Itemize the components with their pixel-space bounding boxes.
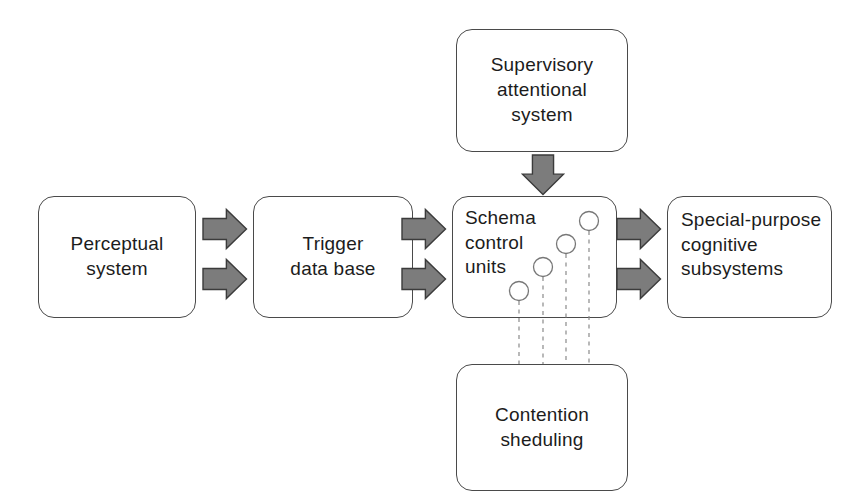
node-trigger-data-base-label: Trigger data base — [290, 232, 375, 281]
arrow-shape — [617, 210, 661, 249]
node-contention-sheduling[interactable]: Contention sheduling — [456, 364, 628, 491]
arrow-schema-to-subsystems-upper — [616, 208, 662, 250]
arrow-supervisory-to-schema — [521, 154, 565, 196]
arrow-shape — [402, 260, 446, 299]
arrow-perceptual-to-trigger-lower — [202, 258, 248, 300]
node-trigger-data-base[interactable]: Trigger data base — [253, 196, 413, 318]
node-supervisory-attentional-system[interactable]: Supervisory attentional system — [456, 29, 628, 152]
arrow-schema-to-subsystems-lower — [616, 258, 662, 300]
arrow-shape — [203, 260, 247, 299]
node-supervisory-attentional-system-label: Supervisory attentional system — [491, 53, 594, 127]
node-perceptual-system[interactable]: Perceptual system — [38, 196, 196, 318]
node-schema-control-units-label: Schema control units — [465, 206, 536, 280]
node-contention-sheduling-label: Contention sheduling — [495, 403, 589, 452]
arrow-trigger-to-schema-lower — [401, 258, 447, 300]
arrow-shape — [203, 210, 247, 249]
arrow-trigger-to-schema-upper — [401, 208, 447, 250]
node-schema-control-units[interactable]: Schema control units — [452, 196, 617, 318]
node-perceptual-system-label: Perceptual system — [71, 232, 164, 281]
arrow-shape — [617, 260, 661, 299]
node-special-purpose-cognitive-subsystems[interactable]: Special-purpose cognitive subsystems — [667, 196, 832, 318]
arrow-perceptual-to-trigger-upper — [202, 208, 248, 250]
diagram-canvas: Perceptual system Trigger data base Sche… — [0, 0, 865, 502]
arrow-shape — [523, 155, 564, 195]
arrow-shape — [402, 210, 446, 249]
node-special-purpose-cognitive-subsystems-label: Special-purpose cognitive subsystems — [681, 208, 821, 282]
